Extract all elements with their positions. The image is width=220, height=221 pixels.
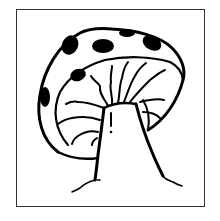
ground-lines <box>72 176 182 192</box>
cap-spot <box>40 87 50 107</box>
mushroom-stem <box>95 103 163 180</box>
cap-spot <box>92 39 114 53</box>
cap-spot <box>59 33 82 58</box>
cap-spot <box>119 29 135 37</box>
mushroom-illustration <box>0 0 220 221</box>
